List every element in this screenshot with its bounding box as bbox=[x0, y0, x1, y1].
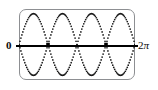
lower-curve-dots bbox=[19, 44, 135, 77]
horizontal-axis-line bbox=[16, 45, 138, 47]
upper-curve-dots bbox=[19, 13, 135, 46]
axis-label-zero: 0 bbox=[6, 40, 12, 51]
axis-label-two-pi: 2π bbox=[138, 40, 149, 51]
pi-symbol: π bbox=[144, 39, 150, 51]
calculator-graph-figure: 0 2π bbox=[0, 0, 158, 90]
